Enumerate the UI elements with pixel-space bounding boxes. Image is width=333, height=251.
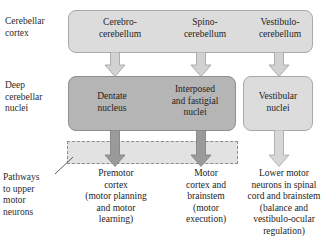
nucleus-label-vestibular: Vestibular nuclei [245,91,311,114]
leader-line-pathways [54,154,76,176]
arrow-vestibular-to-lower-motor-neurons [268,130,290,171]
target-label-premotor-cortex: Premotor cortex (motor planning and moto… [76,168,156,226]
division-label-vestibulocerebellum: Vestibulo- cerebellum [250,17,310,40]
nucleus-label-dentate: Dentate nucleus [76,91,148,114]
pathways-band [67,141,238,164]
row-label-pathways-to-upper-motor-neurons: Pathways to upper motor neurons [3,172,61,218]
division-label-cerebrocerebellum: Cerebro- cerebellum [78,17,162,40]
target-label-motor-cortex-brainstem: Motor cortex and brainstem (motor execut… [172,168,240,226]
cerebellar-pathways-diagram: Cerebellar cortex Deep cerebellar nuclei… [0,0,333,251]
target-label-lower-motor-neurons: Lower motor neurons in spinal cord and b… [236,168,332,237]
arrow-interposed-to-motor-cortex [190,130,212,171]
arrow-dentate-to-premotor-cortex [104,130,126,171]
row-label-cerebellar-cortex: Cerebellar cortex [5,16,65,39]
row-label-deep-cerebellar-nuclei: Deep cerebellar nuclei [5,80,65,115]
division-label-spinocerebellum: Spino- cerebellum [168,17,242,40]
nucleus-label-interposed-fastigial: Interposed and fastigial nuclei [156,84,234,119]
